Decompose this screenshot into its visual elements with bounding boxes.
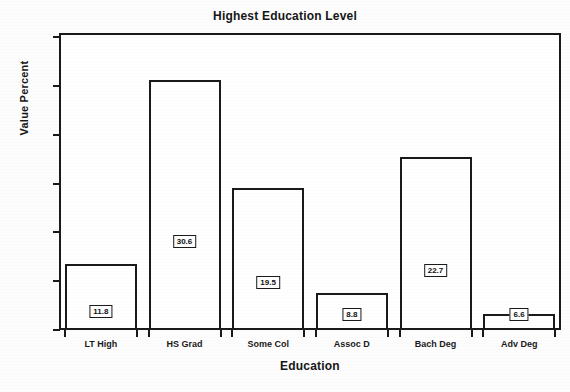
x-axis-category-label: Some Col — [247, 339, 289, 349]
x-axis-tick-mark — [387, 330, 389, 337]
bar-value-label: 11.8 — [89, 305, 112, 318]
x-axis-category-label: Assoc D — [334, 339, 370, 349]
x-axis-tick-mark — [220, 330, 222, 337]
x-axis-category-label: HS Grad — [166, 339, 202, 349]
x-axis-tick-mark — [482, 330, 484, 337]
x-axis-category-label: LT High — [84, 339, 117, 349]
y-axis-tick-mark — [53, 231, 60, 233]
chart-title: Highest Education Level — [0, 9, 570, 23]
y-axis-title: Value Percent — [18, 28, 30, 168]
bar — [149, 80, 221, 330]
bar-value-label: 30.6 — [173, 235, 197, 248]
bar — [232, 188, 304, 330]
x-axis-tick-mark — [554, 330, 556, 337]
x-axis-tick-mark — [303, 330, 305, 337]
x-axis-tick-mark — [471, 330, 473, 337]
y-axis-tick-mark — [53, 134, 60, 136]
x-axis-tick-mark — [148, 330, 150, 337]
x-axis-title: Education — [59, 359, 561, 373]
x-axis-category-label: Adv Deg — [501, 339, 538, 349]
bar-value-label: 19.5 — [256, 276, 280, 289]
bar-value-label: 8.8 — [342, 308, 361, 321]
bar-chart: Highest Education Level Value Percent 5.… — [0, 0, 570, 392]
x-axis-tick-mark — [231, 330, 233, 337]
bar-value-label: 22.7 — [424, 264, 448, 277]
x-axis-tick-mark — [315, 330, 317, 337]
x-axis-tick-mark — [399, 330, 401, 337]
x-axis-category-label: Bach Deg — [415, 339, 457, 349]
y-axis-tick-mark — [53, 183, 60, 185]
x-axis-tick-mark — [136, 330, 138, 337]
y-axis-tick-mark — [53, 36, 60, 38]
y-axis-tick-mark — [53, 85, 60, 87]
bar-value-label: 6.6 — [510, 308, 529, 321]
bar — [400, 157, 472, 330]
bar — [65, 264, 137, 330]
x-axis-tick-mark — [64, 330, 66, 337]
y-axis-tick-mark — [53, 280, 60, 282]
y-axis-tick-mark — [53, 329, 60, 331]
